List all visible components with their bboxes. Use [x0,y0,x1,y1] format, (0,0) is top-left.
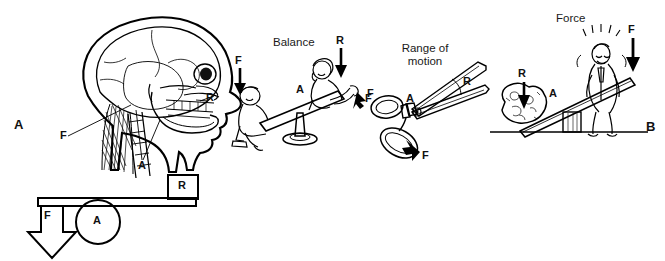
schematic-lever [28,175,198,258]
schematic-marker-r: R [178,180,186,192]
skull-marker-r: R [206,92,214,104]
scissors-marker-f-upper: F [367,88,374,100]
skull-illustration [68,17,241,178]
scissors-illustration [370,62,489,164]
force-marker-f: F [628,24,635,36]
balance-illustration [232,48,366,150]
balance-resistance-arrow [335,48,347,78]
panel-letter-b: B [646,120,656,134]
skull-marker-f: F [60,130,67,142]
balance-force-arrow-left [234,68,246,95]
schematic-force-arrow [28,206,76,258]
balance-heading: Balance [273,36,315,48]
scissors-marker-f-lower: F [422,150,429,162]
range-of-motion-heading-line2: motion [408,55,443,67]
scissors-marker-a: A [406,93,414,105]
schematic-marker-f: F [44,210,51,222]
balance-marker-r: R [336,35,344,47]
force-marker-r: R [518,68,526,80]
balance-marker-f-left: F [235,55,242,67]
leader-line-a1 [136,110,142,160]
leader-line-f [68,105,131,136]
panel-letter-a: A [14,118,24,132]
range-of-motion-heading: Range ofmotion [388,42,462,68]
force-force-arrow [626,38,640,72]
force-marker-a: A [549,88,557,100]
skull-marker-a: A [138,160,146,172]
range-of-motion-heading-line1: Range of [402,42,449,54]
balance-marker-a: A [296,84,304,96]
lever-systems-figure: A B F A R F A R Balance F A R F Range of… [0,0,665,261]
scissors-marker-r: R [463,76,471,88]
force-heading: Force [556,12,585,24]
schematic-marker-a: A [93,215,101,227]
force-illustration [490,24,648,137]
